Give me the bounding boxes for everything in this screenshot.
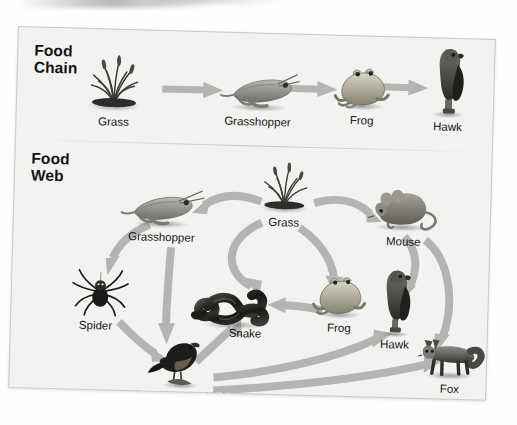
food-web-title: Food Web [31,149,70,185]
label-mouse: Mouse [386,235,421,248]
frog-icon [311,271,368,320]
food-chain-node-frog: Frog [333,62,392,114]
label-hawk: Hawk [380,338,409,351]
food-web-node-grass: Grass [252,159,317,215]
food-chain-title: Food Chain [34,41,78,77]
food-chain-node-grasshopper: Grasshopper [215,66,302,114]
label-grass: Grass [268,216,299,229]
food-web-node-fox: Fox [416,328,485,382]
label-snake: Snake [229,327,262,340]
grass-icon [79,51,151,115]
label-hawk: Hawk [433,120,462,133]
spider-icon [69,267,132,319]
food-web-node-snake: Snake [191,282,272,332]
label-grasshopper: Grasshopper [224,115,291,129]
hawk-icon [369,265,423,338]
label-grass: Grass [98,115,129,128]
food-web-node-mouse: Mouse [366,184,443,234]
label-frog: Frog [327,321,351,334]
food-web-node-insectivorous-bird: Insectivorous bird [145,331,217,391]
label-spider: Spider [79,319,113,332]
hawk-icon [419,42,479,120]
grasshopper-icon [215,66,302,114]
figure-canvas: Food Chain Food Web [0,0,517,425]
food-web-node-spider: Spider [69,267,132,319]
mouse-icon [366,184,443,234]
food-web-node-grasshopper: Grasshopper [118,184,207,230]
grass-icon [252,159,317,215]
label-frog: Frog [350,114,374,127]
label-fox: Fox [440,383,459,396]
section-divider [26,139,482,152]
frog-icon [333,62,392,114]
grasshopper-icon [118,184,207,230]
label-insectivorous-bird: Insectivorous bird [135,388,225,399]
label-grasshopper: Grasshopper [128,230,195,244]
fox-icon [416,328,485,382]
diagram-panel: Food Chain Food Web [8,26,496,401]
page-bleed-smudge-2 [150,0,280,4]
food-chain-node-hawk: Hawk [419,42,479,120]
bird-icon [145,331,217,391]
food-chain-node-grass: Grass [79,51,151,115]
snake-icon [191,282,278,332]
food-web-node-hawk: Hawk [369,265,423,338]
food-web-node-frog: Frog [311,271,368,320]
